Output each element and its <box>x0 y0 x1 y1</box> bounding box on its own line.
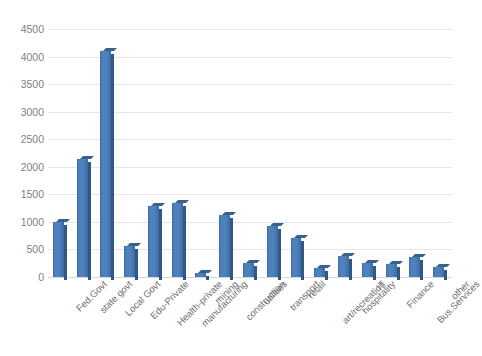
bar[interactable] <box>362 263 373 277</box>
bar[interactable] <box>100 51 111 277</box>
y-tick-label: 0 <box>0 272 44 283</box>
bar-slot <box>428 29 452 277</box>
y-tick-label: 2500 <box>0 134 44 145</box>
y-tick-label: 500 <box>0 244 44 255</box>
y-axis-tick-labels: 050010001500200025003000350040004500 <box>0 29 44 277</box>
y-tick-label: 4000 <box>0 51 44 62</box>
bar[interactable] <box>148 206 159 277</box>
bar[interactable] <box>77 159 88 277</box>
bar-slot <box>381 29 405 277</box>
x-tick-label: utilities <box>261 279 288 306</box>
bar[interactable] <box>267 226 278 277</box>
bar-slot <box>404 29 428 277</box>
bar[interactable] <box>219 215 230 277</box>
y-tick-label: 1500 <box>0 189 44 200</box>
y-tick-label: 4500 <box>0 24 44 35</box>
y-tick-label: 3500 <box>0 79 44 90</box>
bar-slot <box>96 29 120 277</box>
bar-slot <box>191 29 215 277</box>
bar-slot <box>309 29 333 277</box>
y-tick-label: 2000 <box>0 162 44 173</box>
bar[interactable] <box>314 268 325 277</box>
bar[interactable] <box>291 238 302 277</box>
x-tick-label: Finance <box>405 279 436 310</box>
bar-slot <box>143 29 167 277</box>
axis-baseline <box>48 277 452 278</box>
bar-slot <box>119 29 143 277</box>
bar[interactable] <box>338 256 349 277</box>
bar[interactable] <box>53 222 64 277</box>
bar-slot <box>238 29 262 277</box>
x-axis-category-labels: Fed.Govtstate govtLocal GovtEdu-PrivateH… <box>48 279 452 356</box>
bar[interactable] <box>195 273 206 277</box>
bar-series <box>48 29 452 277</box>
bar-slot <box>357 29 381 277</box>
bar[interactable] <box>172 203 183 277</box>
y-tick-label: 1000 <box>0 217 44 228</box>
bar[interactable] <box>243 263 254 277</box>
bar-slot <box>72 29 96 277</box>
bar[interactable] <box>124 246 135 277</box>
bar[interactable] <box>433 267 444 277</box>
y-tick-label: 3000 <box>0 106 44 117</box>
bar-slot <box>48 29 72 277</box>
bar[interactable] <box>409 257 420 277</box>
bar-slot <box>214 29 238 277</box>
bar-slot <box>286 29 310 277</box>
bar-slot <box>262 29 286 277</box>
bar[interactable] <box>386 264 397 277</box>
bar-slot <box>333 29 357 277</box>
bar-slot <box>167 29 191 277</box>
